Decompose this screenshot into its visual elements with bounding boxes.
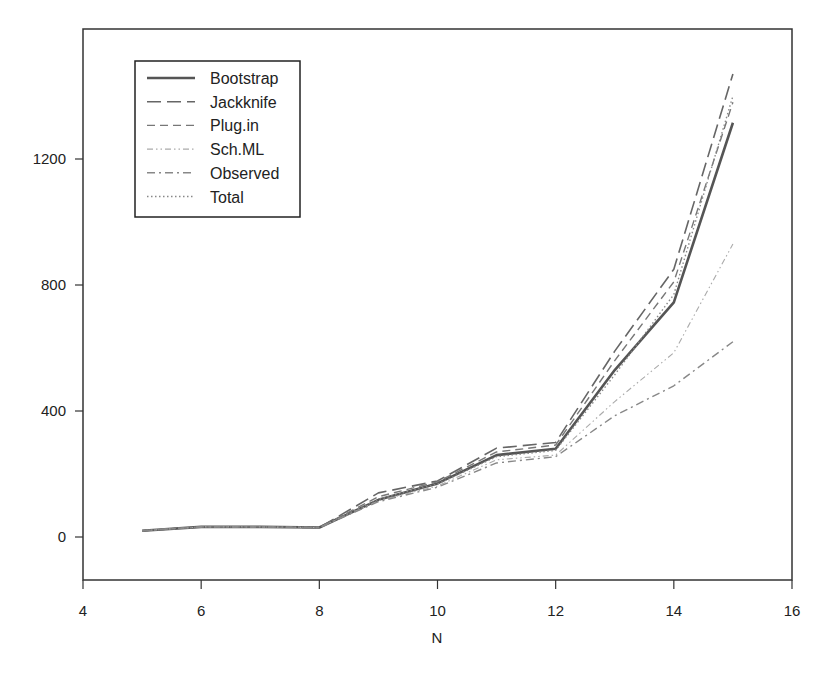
y-tick-label: 0	[58, 528, 66, 545]
x-axis-title: N	[432, 629, 443, 646]
x-tick-label: 16	[784, 602, 801, 619]
x-tick-label: 4	[79, 602, 87, 619]
y-axis: 04008001200	[33, 150, 83, 545]
y-tick-label: 1200	[33, 150, 66, 167]
line-chart: 04008001200 46810121416 N BootstrapJackk…	[0, 0, 822, 680]
legend-label: Jackknife	[210, 94, 277, 111]
x-axis: 46810121416	[79, 580, 801, 619]
series-line-sch-ml	[142, 244, 733, 531]
y-tick-label: 400	[41, 402, 66, 419]
x-tick-label: 14	[665, 602, 682, 619]
legend-label: Bootstrap	[210, 70, 279, 87]
y-tick-label: 800	[41, 276, 66, 293]
legend-label: Total	[210, 189, 244, 206]
x-tick-label: 6	[197, 602, 205, 619]
x-tick-label: 12	[547, 602, 564, 619]
legend-label: Sch.ML	[210, 141, 264, 158]
series-line-observed	[142, 342, 733, 531]
x-tick-label: 8	[315, 602, 323, 619]
legend-label: Observed	[210, 165, 279, 182]
x-tick-label: 10	[429, 602, 446, 619]
legend-label: Plug.in	[210, 117, 259, 134]
legend: BootstrapJackknifePlug.inSch.MLObservedT…	[135, 61, 300, 217]
